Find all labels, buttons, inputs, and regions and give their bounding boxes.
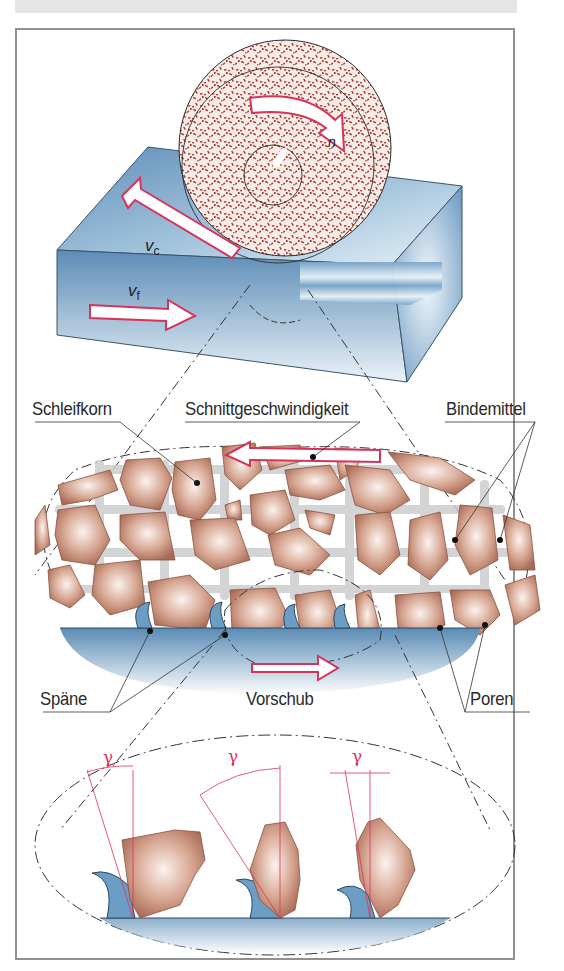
label-chips: Späne: [40, 688, 87, 710]
label-grain: Schleifkorn: [32, 398, 112, 420]
grinding-diagram: n vc vf: [0, 0, 564, 971]
gamma-label-2: γ: [228, 746, 238, 766]
label-feed: Vorschub: [246, 688, 314, 710]
cutting-speed-direction-arrow-icon: [226, 442, 380, 466]
gamma-label-1: γ: [103, 747, 113, 767]
label-bond: Bindemittel: [446, 398, 526, 420]
label-cutting-speed: Schnittgeschwindigkeit: [185, 398, 348, 420]
label-pores: Poren: [470, 688, 513, 710]
grain-structure: [35, 442, 540, 695]
gamma-label-3: γ: [352, 746, 362, 766]
rotation-symbol: n: [328, 134, 336, 150]
rake-angle-detail: γ γ γ: [35, 735, 515, 955]
